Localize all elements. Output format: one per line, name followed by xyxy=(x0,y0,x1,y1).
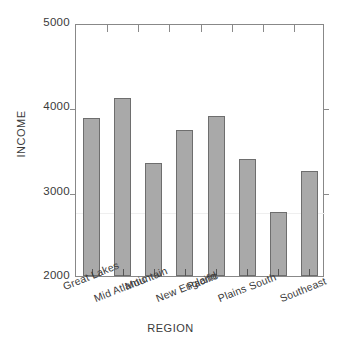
x-axis-title: REGION xyxy=(0,322,341,334)
plot-area xyxy=(75,24,324,277)
bar xyxy=(208,116,225,276)
bar xyxy=(176,130,193,276)
x-axis-tick-top xyxy=(232,25,233,32)
y-axis-tick-right xyxy=(323,194,329,195)
x-axis-tick xyxy=(123,269,124,276)
bar xyxy=(270,212,287,276)
y-tick-label: 5000 xyxy=(26,16,70,28)
y-axis-tick xyxy=(70,109,76,110)
bar-chart: INCOME 2000300040005000 Great LakesMid A… xyxy=(0,0,341,344)
y-axis-tick xyxy=(70,194,76,195)
bar xyxy=(301,171,318,276)
x-axis-tick-top xyxy=(201,25,202,32)
bar xyxy=(239,159,256,276)
x-axis-tick-top xyxy=(294,25,295,32)
x-axis-tick-top xyxy=(169,25,170,32)
x-axis-tick xyxy=(278,269,279,276)
x-axis-tick-labels: Great LakesMid AtlanticMountainNew Engla… xyxy=(0,277,341,327)
bar xyxy=(145,163,162,276)
x-tick-label: Southeast xyxy=(278,275,328,305)
bar xyxy=(83,118,100,276)
y-tick-label: 3000 xyxy=(26,185,70,197)
x-axis-tick xyxy=(309,269,310,276)
x-axis-tick-top xyxy=(107,25,108,32)
x-axis-tick xyxy=(247,269,248,276)
y-tick-label: 4000 xyxy=(26,100,70,112)
bar xyxy=(114,98,131,276)
x-axis-tick-top xyxy=(263,25,264,32)
x-tick-label: Plains xyxy=(216,282,248,304)
y-axis-tick-right xyxy=(323,109,329,110)
x-axis-tick xyxy=(185,269,186,276)
x-axis-tick-top xyxy=(138,25,139,32)
